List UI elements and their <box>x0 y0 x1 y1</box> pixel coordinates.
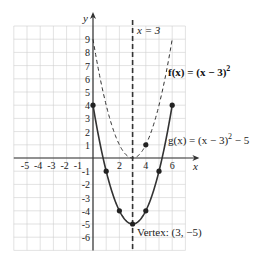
g-point <box>117 208 122 213</box>
y-tick-label: -2 <box>82 179 90 190</box>
f-point <box>143 142 148 147</box>
y-axis-label: y <box>82 12 88 24</box>
x-tick-label: 2 <box>117 160 122 171</box>
x-tick-label: -2 <box>60 160 68 171</box>
y-tick-label: 8 <box>85 47 90 58</box>
x-tick-label: -3 <box>47 160 55 171</box>
y-tick-label: -3 <box>82 193 90 204</box>
g-equation-label: g(x) = (x − 3)2 − 5 <box>168 132 250 147</box>
y-tick-label: 6 <box>85 74 90 85</box>
x-tick-label: -4 <box>34 160 42 171</box>
y-tick-label: 3 <box>85 113 90 124</box>
g-point <box>143 208 148 213</box>
vertex-label: Vertex: (3, −5) <box>137 226 202 239</box>
x-axis-label: x <box>192 160 198 172</box>
y-tick-label: -5 <box>82 219 90 230</box>
y-tick-label: -1 <box>82 166 90 177</box>
y-tick-label: 9 <box>85 34 90 45</box>
y-tick-label: 5 <box>85 87 90 98</box>
g-point <box>156 169 161 174</box>
parabola-chart: -5-4-3-2-1246123456789-1-2-3-4-5-6 x = 3… <box>0 0 270 267</box>
x-tick-label: 4 <box>143 160 148 171</box>
y-tick-label: 7 <box>85 61 90 72</box>
f-equation-label: f(x) = (x − 3)2 <box>168 64 230 79</box>
y-tick-label: -6 <box>82 232 90 243</box>
axes <box>14 12 200 250</box>
f-equation-exponent: 2 <box>226 64 230 73</box>
g-point <box>104 169 109 174</box>
g-equation-text: g(x) = (x − 3) <box>168 134 228 147</box>
x-tick-label: 6 <box>170 160 175 171</box>
y-tick-label: 1 <box>85 140 90 151</box>
y-tick-label: -4 <box>82 206 90 217</box>
g-point <box>170 103 175 108</box>
y-tick-label: 4 <box>85 100 90 111</box>
g-point <box>130 221 135 226</box>
annotations: x = 3 f(x) = (x − 3)2 g(x) = (x − 3)2 − … <box>82 12 250 239</box>
g-equation-tail: − 5 <box>232 134 250 146</box>
axis-of-symmetry-label: x = 3 <box>136 24 161 36</box>
x-tick-label: -5 <box>21 160 29 171</box>
g-point <box>90 103 95 108</box>
y-tick-label: 2 <box>85 127 90 138</box>
f-equation-text: f(x) = (x − 3) <box>168 66 227 79</box>
